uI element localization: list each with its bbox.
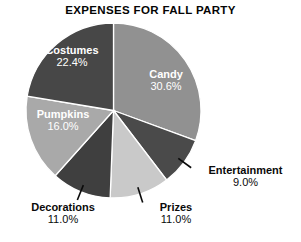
slice-label-candy-name: Candy [131,68,201,80]
slice-label-decorations-value: 11.0% [13,213,113,225]
slice-label-prizes-value: 11.0% [140,213,212,225]
slice-label-decorations-name: Decorations [13,201,113,213]
slice-label-prizes-name: Prizes [140,201,212,213]
slice-label-costumes: Costumes 22.4% [30,44,114,69]
slice-label-pumpkins-value: 16.0% [21,120,105,132]
slice-label-candy: Candy 30.6% [131,68,201,93]
pie-chart: EXPENSES FOR FALL PARTY Costumes 22.4% C… [0,0,301,242]
slice-label-pumpkins-name: Pumpkins [21,108,105,120]
slice-label-pumpkins: Pumpkins 16.0% [21,108,105,133]
slice-label-decorations: Decorations 11.0% [13,201,113,226]
slice-label-candy-value: 30.6% [131,80,201,92]
slice-label-entertainment-value: 9.0% [190,176,301,188]
slice-label-costumes-name: Costumes [30,44,114,56]
slice-label-entertainment: Entertainment 9.0% [190,164,301,189]
slice-label-prizes: Prizes 11.0% [140,201,212,226]
slice-label-costumes-value: 22.4% [30,56,114,68]
slice-label-entertainment-name: Entertainment [190,164,301,176]
